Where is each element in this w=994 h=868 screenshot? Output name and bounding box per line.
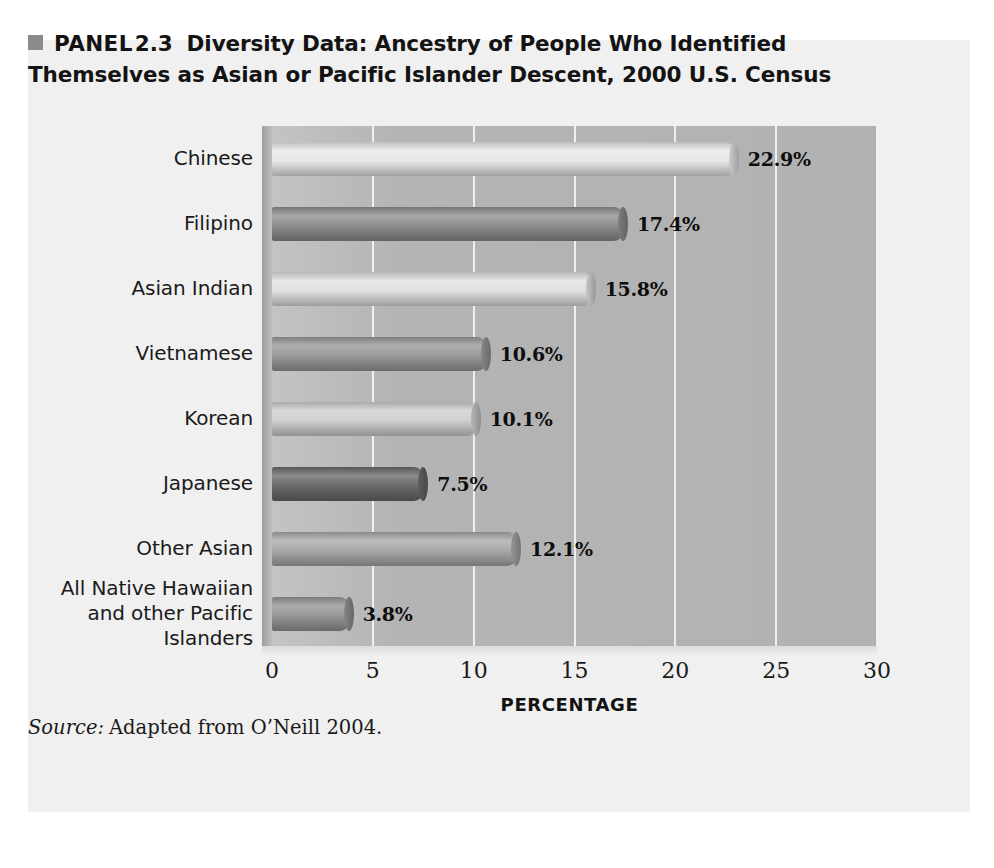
bar-end-cap: [344, 597, 354, 631]
bar-row: 7.5%: [272, 467, 877, 501]
plot-left-wall: [262, 126, 272, 646]
bar-value-label: 10.1%: [490, 408, 553, 430]
x-axis-tick-label: 30: [863, 658, 891, 683]
bar-end-cap: [511, 532, 521, 566]
x-axis-ticks: 051015202530: [262, 658, 877, 690]
x-axis-tick-label: 15: [561, 658, 589, 683]
bar-row: 12.1%: [272, 532, 877, 566]
chart-figure: ChineseFilipinoAsian IndianVietnameseKor…: [0, 110, 942, 710]
plot-area: 22.9%17.4%15.8%10.6%10.1%7.5%12.1%3.8%: [262, 126, 877, 646]
x-axis-tick-label: 5: [366, 658, 380, 683]
bar: [272, 402, 476, 436]
source-text: Adapted from O’Neill 2004.: [109, 716, 382, 739]
filled-square-icon: [28, 35, 43, 50]
y-axis-label-line: and other Pacific: [0, 601, 253, 626]
y-axis-label-line: Asian Indian: [0, 276, 253, 301]
bar: [272, 272, 591, 306]
bar-row: 22.9%: [272, 142, 877, 176]
bar-value-label: 22.9%: [748, 148, 811, 170]
panel-number: 2.3: [135, 31, 173, 56]
bar: [272, 337, 486, 371]
y-axis-label-line: Chinese: [0, 146, 253, 171]
y-axis-label-line: Filipino: [0, 211, 253, 236]
bar-row: 17.4%: [272, 207, 877, 241]
bar: [272, 142, 734, 176]
y-axis-label-line: All Native Hawaiian: [0, 576, 253, 601]
y-axis-label-line: Korean: [0, 406, 253, 431]
bar: [272, 532, 516, 566]
bar-value-label: 10.6%: [500, 343, 563, 365]
y-axis-label-line: Islanders: [0, 626, 253, 651]
bar-row: 10.1%: [272, 402, 877, 436]
x-axis-tick-label: 20: [661, 658, 689, 683]
bar-end-cap: [586, 272, 596, 306]
panel-label: PANEL: [54, 31, 133, 56]
x-axis-tick-label: 10: [460, 658, 488, 683]
source-line: Source:Adapted from O’Neill 2004.: [28, 716, 382, 739]
y-axis-label-line: Vietnamese: [0, 341, 253, 366]
bar-value-label: 17.4%: [637, 213, 700, 235]
y-axis-label: Other Asian: [0, 536, 253, 561]
y-axis-label: Asian Indian: [0, 276, 253, 301]
x-axis-title: PERCENTAGE: [262, 694, 877, 715]
bar-end-cap: [618, 207, 628, 241]
y-axis-label: Vietnamese: [0, 341, 253, 366]
plot-floor: [262, 646, 877, 655]
bar-end-cap: [481, 337, 491, 371]
bar: [272, 467, 423, 501]
bar-value-label: 12.1%: [530, 538, 593, 560]
y-axis-label: All Native Hawaiianand other PacificIsla…: [0, 576, 253, 651]
y-axis-label-line: Japanese: [0, 471, 253, 496]
y-axis-label: Filipino: [0, 211, 253, 236]
y-axis-label: Japanese: [0, 471, 253, 496]
bar-end-cap: [729, 142, 739, 176]
y-axis-label: Chinese: [0, 146, 253, 171]
bar-end-cap: [418, 467, 428, 501]
bar-value-label: 7.5%: [437, 473, 487, 495]
bar-value-label: 15.8%: [605, 278, 668, 300]
y-axis-label-line: Other Asian: [0, 536, 253, 561]
x-axis-tick-label: 25: [762, 658, 790, 683]
panel-title: PANEL2.3Diversity Data: Ancestry of Peop…: [28, 28, 888, 90]
source-label: Source:: [28, 716, 104, 739]
bar-row: 15.8%: [272, 272, 877, 306]
bar-row: 10.6%: [272, 337, 877, 371]
bar: [272, 597, 349, 631]
y-axis-label: Korean: [0, 406, 253, 431]
bar: [272, 207, 623, 241]
bar-row: 3.8%: [272, 597, 877, 631]
bar-end-cap: [471, 402, 481, 436]
bar-value-label: 3.8%: [363, 603, 413, 625]
y-axis-category-labels: ChineseFilipinoAsian IndianVietnameseKor…: [0, 126, 253, 646]
bar-series: 22.9%17.4%15.8%10.6%10.1%7.5%12.1%3.8%: [272, 126, 877, 646]
x-axis-tick-label: 0: [265, 658, 279, 683]
